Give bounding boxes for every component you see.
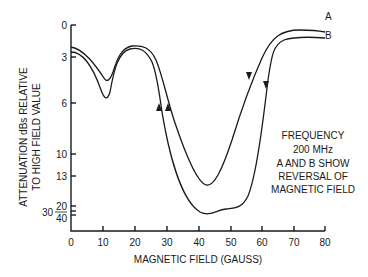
arrow-down-icon: [246, 72, 252, 80]
direction-arrows: [156, 72, 269, 111]
y-tick-label: 3: [61, 52, 67, 63]
x-tick-label: 0: [68, 237, 74, 248]
axes: [71, 25, 325, 231]
attenuation-chart: 0 3 6 10 13 20 40 30 0 10 20 30 40 50 60…: [0, 0, 368, 277]
x-tick-label: 10: [97, 237, 109, 248]
x-tick-label: 70: [288, 237, 300, 248]
curve-label-a: A: [325, 11, 332, 22]
annotation-line: A AND B SHOW: [277, 158, 350, 169]
axis-lines: [71, 25, 325, 231]
y-axis-title-line2: TO HIGH FIELD VALUE: [31, 83, 42, 191]
annotation-line: MAGNETIC FIELD: [271, 184, 355, 195]
annotation-line: 200 MHz: [293, 144, 333, 155]
y-tick-label: 30: [42, 207, 54, 218]
y-tick-label: 20: [56, 201, 68, 212]
x-axis-title: MAGNETIC FIELD (GAUSS): [134, 254, 262, 265]
x-tick-label: 60: [256, 237, 268, 248]
annotation-block: FREQUENCY 200 MHz A AND B SHOW REVERSAL …: [271, 130, 355, 195]
y-tick-label: 6: [61, 98, 67, 109]
annotation-line: REVERSAL OF: [278, 171, 348, 182]
x-tick-label: 30: [161, 237, 173, 248]
annotation-line: FREQUENCY: [282, 130, 345, 141]
y-tick-label: 13: [56, 171, 68, 182]
arrow-down-icon: [263, 81, 269, 89]
y-tick-labels: 0 3 6 10 13 20 40 30: [42, 20, 68, 224]
x-tick-label: 20: [129, 237, 141, 248]
x-tick-labels: 0 10 20 30 40 50 60 70 80: [68, 237, 331, 248]
x-tick-label: 50: [225, 237, 237, 248]
y-axis-title-line1: ATTENUATION dBs RELATIVE: [18, 67, 29, 207]
curve-label-b: B: [325, 30, 332, 41]
y-tick-label: 40: [56, 213, 68, 224]
y-tick-label: 10: [56, 149, 68, 160]
x-tick-label: 80: [319, 237, 331, 248]
x-tick-label: 40: [193, 237, 205, 248]
y-tick-label: 0: [61, 20, 67, 31]
